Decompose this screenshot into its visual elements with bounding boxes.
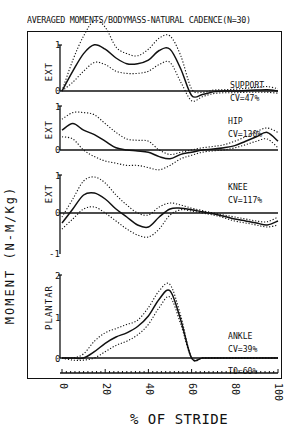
ankle-sd-line: [62, 283, 278, 361]
hip-mean-line: [62, 124, 278, 159]
knee-mean-line: [62, 193, 278, 228]
knee-sd-line: [62, 207, 278, 238]
ankle-mean-line: [62, 290, 278, 361]
knee-sd-line: [62, 177, 278, 222]
chart-plot-area: [0, 0, 298, 434]
support-mean-line: [62, 45, 278, 98]
support-sd-line: [62, 61, 278, 101]
support-sd-line: [62, 20, 278, 92]
hip-sd-line: [62, 112, 278, 154]
